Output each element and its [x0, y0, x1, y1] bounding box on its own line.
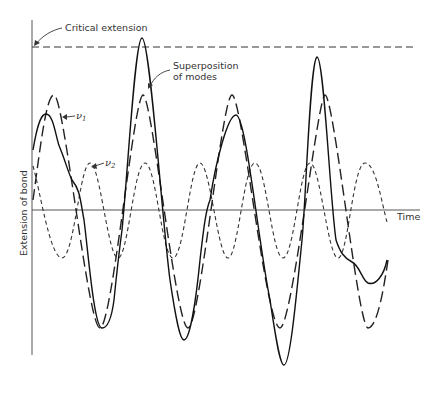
- superposition-label-line2: of modes: [173, 71, 217, 82]
- y-axis-label: Extension of bond: [18, 170, 29, 256]
- critical-extension-arrow: [36, 28, 62, 44]
- nu1-arrow: [66, 116, 75, 117]
- nu1-label: ν1: [76, 110, 87, 123]
- arrowhead-icon: [62, 114, 67, 120]
- nu1-curve: [33, 95, 388, 328]
- nu2-label: ν2: [105, 157, 116, 170]
- superposition-arrow: [150, 70, 170, 86]
- superposition-curve: [33, 38, 387, 365]
- bond-extension-diagram: Critical extension Superposition of mode…: [0, 0, 435, 394]
- x-axis-label: Time: [396, 211, 420, 222]
- superposition-label: Superposition: [173, 60, 238, 71]
- critical-extension-label: Critical extension: [65, 22, 148, 33]
